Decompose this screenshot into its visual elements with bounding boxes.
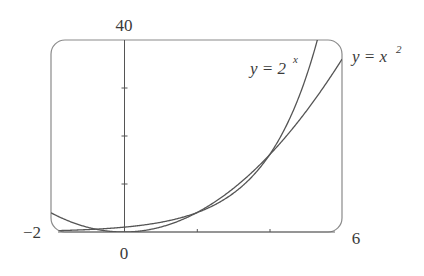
x-max-label: 6 xyxy=(352,229,361,248)
label-x-squared: y = x 2 xyxy=(350,43,402,66)
svg-text:y = 2: y = 2 xyxy=(248,59,287,78)
y-max-label: 40 xyxy=(116,16,133,35)
label-2-to-the-x: y = 2 x xyxy=(248,53,298,78)
curve-x-squared xyxy=(51,59,342,232)
plot-frame xyxy=(51,40,342,232)
svg-text:2: 2 xyxy=(396,43,402,55)
x-min-label: −2 xyxy=(23,223,41,242)
svg-text:x: x xyxy=(292,53,298,65)
svg-text:y = x: y = x xyxy=(350,47,388,66)
chart: 40 −2 0 6 y = 2 x y = x 2 xyxy=(0,0,424,276)
x-zero-label: 0 xyxy=(120,244,129,263)
